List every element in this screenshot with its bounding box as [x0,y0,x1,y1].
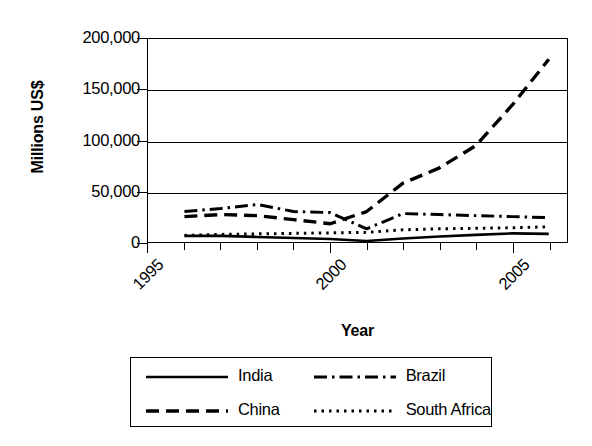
x-axis-tick-mark [367,243,368,250]
x-axis-tick-mark [550,243,551,250]
legend-line-sample-icon [145,403,229,415]
legend-label: China [238,400,280,419]
x-axis-tick-label: 2005 [495,255,534,294]
series-line-china [184,59,548,223]
line-chart-figure: Millions US$ 050,000100,000150,000200,00… [0,0,592,446]
y-axis-tick-mark [137,192,148,193]
chart-legend: IndiaBrazilChinaSouth Africa [130,357,492,427]
legend-line-sample-icon [145,369,229,381]
y-axis-tick-mark [137,89,148,90]
legend-item-south-africa[interactable]: South Africa [299,400,491,419]
x-axis-tick-mark [147,243,148,253]
x-axis-tick-mark [513,243,514,253]
plot-area [147,38,568,243]
x-axis-tick-mark [476,243,477,250]
x-axis-tick-label: 2000 [312,255,351,294]
y-axis-tick-mark [137,141,148,142]
y-axis-tick-labels: 050,000100,000150,000200,000 [22,0,140,446]
legend-line-sample-icon [313,369,397,381]
y-axis-tick-label: 150,000 [25,80,140,96]
legend-item-brazil[interactable]: Brazil [299,366,491,385]
x-axis-tick-mark [330,243,331,253]
legend-item-china[interactable]: China [131,400,299,419]
legend-label: South Africa [406,400,491,419]
x-axis-tick-mark [220,243,221,250]
x-axis-title: Year [147,322,568,340]
y-axis-tick-mark [137,38,148,39]
y-axis-tick-label: 200,000 [25,29,140,45]
x-axis-tick-mark [293,243,294,250]
legend-label: Brazil [406,366,445,385]
legend-label: India [238,366,272,385]
legend-item-india[interactable]: India [131,366,299,385]
x-axis-tick-mark [403,243,404,250]
y-axis-tick-label: 50,000 [25,183,140,199]
x-axis-tick-mark [257,243,258,250]
x-axis-tick-mark [440,243,441,250]
y-axis-tick-label: 100,000 [25,132,140,148]
legend-line-sample-icon [313,403,397,415]
y-axis-tick-label: 0 [25,234,140,250]
data-series-layer [148,39,567,242]
series-line-brazil [184,204,548,228]
x-axis-tick-mark [184,243,185,250]
